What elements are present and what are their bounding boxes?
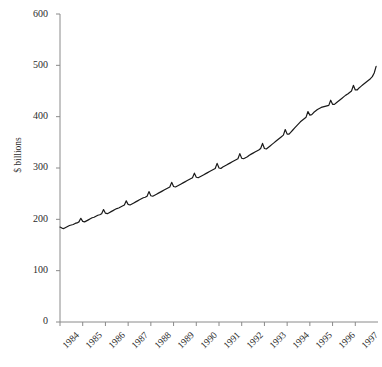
x-axis-ticks — [60, 322, 355, 326]
data-line-series-1 — [60, 66, 376, 228]
plot-area — [0, 0, 382, 367]
y-axis-ticks — [56, 14, 60, 322]
chart-container: $ billions 600 500 400 300 200 100 0 198… — [0, 0, 382, 367]
